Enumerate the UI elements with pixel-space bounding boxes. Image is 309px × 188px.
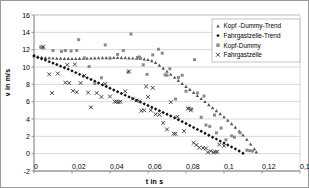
data-point-diamond [184, 122, 187, 125]
data-point-square [109, 57, 112, 60]
data-point-cross [75, 90, 79, 94]
data-point-square [193, 58, 196, 61]
data-point-triangle [207, 103, 210, 106]
data-point-triangle [211, 106, 214, 109]
data-point-triangle [86, 57, 89, 60]
data-point-diamond [108, 87, 111, 90]
data-point-square [161, 52, 164, 55]
y-tick-label: 6 [26, 98, 30, 105]
data-point-triangle [154, 61, 157, 64]
data-point-triangle [67, 57, 70, 60]
x-tick-label: 0,04 [110, 163, 124, 170]
data-point-cross [217, 143, 221, 147]
data-point-cross [169, 100, 173, 104]
data-point-square [157, 48, 160, 51]
data-point-cross [47, 72, 51, 76]
data-point-cross [50, 91, 54, 95]
data-point-triangle [184, 85, 187, 88]
data-point-triangle [101, 56, 104, 59]
data-point-diamond [48, 60, 51, 63]
data-point-triangle [78, 57, 81, 60]
data-point-diamond [74, 71, 77, 74]
data-point-diamond [215, 137, 218, 140]
x-tick-label: 0,12 [262, 163, 276, 170]
data-point-diamond [55, 63, 58, 66]
data-point-diamond [241, 152, 244, 155]
data-point-triangle [173, 76, 176, 79]
data-point-triangle [143, 57, 146, 60]
data-point-square [151, 53, 154, 56]
data-point-diamond [158, 109, 161, 112]
data-point-square [100, 76, 103, 79]
data-point-diamond [230, 145, 233, 148]
x-tick-label: 0,08 [186, 163, 200, 170]
data-point-cross [197, 146, 201, 150]
data-point-square [245, 149, 248, 152]
data-point-diamond [192, 126, 195, 129]
data-point-triangle [127, 56, 130, 59]
data-point-triangle [51, 56, 54, 59]
data-point-triangle [188, 88, 191, 91]
data-point-cross [86, 91, 90, 95]
data-point-square [239, 131, 242, 134]
legend-item-label: Fahrgastzelle [224, 51, 263, 59]
data-point-square [168, 67, 171, 70]
series-fahrgastzelle [41, 45, 226, 155]
data-point-diamond [211, 136, 214, 139]
data-point-square [181, 74, 184, 77]
x-tick-labels: 00,020,040,060,080,10,120,14 [34, 163, 309, 170]
data-point-triangle [177, 79, 180, 82]
data-point-diamond [200, 130, 203, 133]
data-point-diamond [67, 67, 70, 70]
chart-legend: Kopf -Dummy-TrendFahrgastzelle-TrendKopf… [212, 19, 300, 62]
data-point-triangle [245, 138, 248, 141]
data-point-cross [71, 89, 75, 93]
y-tick-label: 2 [26, 133, 30, 140]
data-point-cross [182, 129, 186, 133]
data-point-triangle [165, 70, 168, 73]
data-point-cross [65, 63, 69, 67]
data-point-diamond [219, 139, 222, 142]
data-point-diamond [169, 114, 172, 117]
y-tick-labels: -20246810121416 [22, 12, 30, 175]
data-point-cross [176, 115, 180, 119]
data-point-square [251, 150, 254, 153]
data-point-square [208, 125, 211, 128]
y-tick-label: 16 [22, 12, 30, 19]
data-point-triangle [55, 57, 58, 60]
data-point-cross [192, 141, 196, 145]
data-point-triangle [93, 56, 96, 59]
data-point-triangle [97, 56, 100, 59]
legend-item-label: Fahrgastzelle-Trend [224, 32, 281, 40]
data-point-diamond [150, 106, 153, 109]
series-fahrgastzelle-trend [32, 54, 244, 155]
data-point-diamond [181, 120, 184, 123]
data-point-cross [95, 91, 99, 95]
data-point-cross [161, 121, 165, 125]
data-point-square [220, 127, 223, 130]
data-point-square [177, 76, 180, 79]
data-point-diamond [116, 90, 119, 93]
data-point-square [215, 131, 218, 134]
data-point-square [93, 82, 96, 85]
x-tick-label: 0,1 [224, 163, 234, 170]
data-point-triangle [74, 57, 77, 60]
y-tick-label: -2 [24, 168, 30, 175]
data-point-triangle [59, 57, 62, 60]
data-point-square [75, 49, 78, 52]
data-point-square [216, 44, 219, 47]
data-point-cross [123, 89, 127, 93]
data-point-square [129, 33, 132, 36]
data-point-square [52, 49, 55, 52]
data-point-cross [73, 63, 77, 67]
data-point-diamond [203, 132, 206, 135]
data-point-square [200, 116, 203, 119]
data-point-triangle [131, 56, 134, 59]
data-point-triangle [200, 97, 203, 100]
data-point-square [122, 49, 125, 52]
x-tick-label: 0,06 [148, 163, 162, 170]
y-tick-label: 12 [22, 46, 30, 53]
chart-container: 00,020,040,060,080,10,120,14 -2024681012… [0, 0, 309, 188]
data-point-square [104, 43, 107, 46]
data-point-triangle [241, 133, 244, 136]
